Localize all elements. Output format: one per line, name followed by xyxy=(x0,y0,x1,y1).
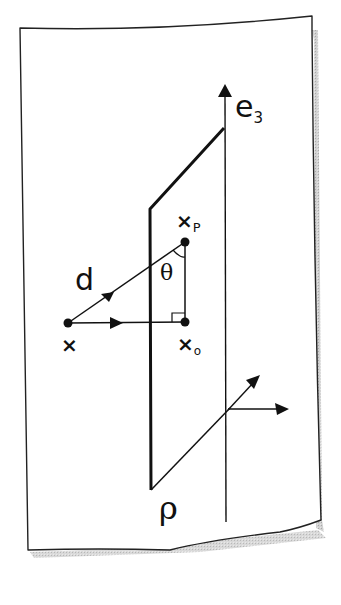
label-d: d xyxy=(75,265,94,295)
label-theta: θ xyxy=(160,262,173,284)
point-xp xyxy=(181,238,190,247)
diagram-canvas: e3 d θ × ×o ×P ρ xyxy=(0,0,341,605)
point-x xyxy=(64,319,73,328)
label-xp: ×P xyxy=(176,211,201,234)
label-xo: ×o xyxy=(177,334,201,357)
point-xo xyxy=(181,318,190,327)
label-e3: e3 xyxy=(235,92,263,126)
label-x: × xyxy=(61,335,78,355)
label-plane-rho: ρ xyxy=(159,492,178,524)
